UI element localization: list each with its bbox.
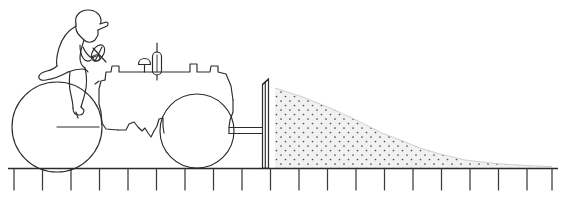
rider-back — [57, 26, 76, 66]
exhaust-stack — [153, 43, 162, 80]
air-filter-dome — [139, 59, 151, 65]
rider-figure — [39, 10, 108, 118]
ground-line — [8, 169, 558, 191]
rider-head — [76, 24, 98, 42]
rider-boot — [73, 107, 84, 115]
tractor-scene-svg — [0, 0, 565, 199]
soil-pile — [270, 80, 560, 170]
rider-lower-leg-back — [69, 72, 73, 108]
tractor-body-fill — [100, 66, 232, 140]
tractor-body — [100, 66, 232, 140]
ground-hatch-ticks — [14, 169, 552, 191]
scraper-blade — [263, 79, 269, 168]
rider-lower-leg-front — [81, 68, 87, 107]
step-plate — [95, 81, 99, 84]
air-filter-cap — [139, 59, 151, 73]
rider-cap — [76, 10, 108, 30]
rider-thigh — [39, 66, 68, 80]
illustration-canvas — [0, 0, 565, 199]
soil-pile-stipple — [270, 80, 560, 170]
